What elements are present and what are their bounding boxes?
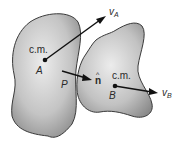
velocity-b-arrowhead [149,88,158,95]
velocity-label-a: vA [109,7,119,18]
velocity-a-subscript: A [114,11,119,18]
cm-point-b [113,84,118,89]
point-label-a: A [36,66,43,76]
velocity-b-subscript: B [167,92,172,99]
velocity-a-arrowhead [96,16,106,24]
point-label-b: B [109,91,116,101]
diagram-canvas [0,0,187,145]
cm-label-b: c.m. [112,71,131,81]
cm-label-a: c.m. [29,45,48,55]
body-a [12,14,81,138]
normal-label: n [95,76,101,86]
cm-point-a [43,58,48,63]
contact-point-label: P [61,80,68,90]
velocity-label-b: vB [162,88,172,99]
